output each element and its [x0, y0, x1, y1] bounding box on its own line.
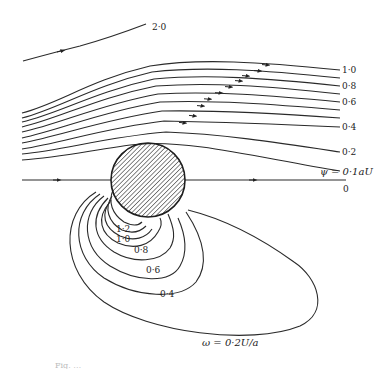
vorticity-label-1-0: 1·0 — [116, 234, 131, 244]
streamline-label-2-0: 2·0 — [152, 22, 167, 32]
streamline-label-0-4: 0·4 — [342, 122, 357, 132]
vorticity-contours: 1·2 1·0 0·8 0·6 0·4 ω = 0·2U/a — [70, 190, 318, 348]
streamline-label-0-2: 0·2 — [342, 147, 356, 157]
vorticity-label-omega: ω = 0·2U/a — [202, 337, 259, 348]
streamline-label-1-0: 1·0 — [342, 65, 357, 75]
streamlines-upper: 1·0 0·8 0·6 0·4 0·2 ψ = 0·1aU — [22, 62, 373, 177]
vorticity-label-1-2: 1·2 — [116, 224, 130, 234]
cylinder — [111, 143, 185, 217]
streamline-label-0-6: 0·6 — [342, 97, 357, 107]
vorticity-label-0-4: 0·4 — [160, 289, 175, 299]
streamline-2-0: 2·0 — [23, 22, 167, 61]
vorticity-label-0-6: 0·6 — [146, 265, 161, 275]
axis-label-zero: 0 — [343, 184, 349, 194]
streamline-label-psi: ψ = 0·1aU — [320, 166, 373, 177]
vorticity-label-0-8: 0·8 — [134, 245, 149, 255]
flow-diagram: 2·0 1·0 0·8 0·6 0·4 0·2 ψ = 0·1aU — [0, 0, 387, 369]
streamline-label-0-8: 0·8 — [342, 81, 357, 91]
figure-caption: Fig. … — [55, 361, 81, 369]
